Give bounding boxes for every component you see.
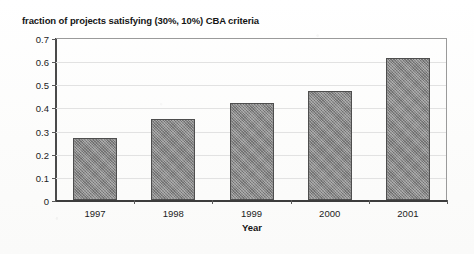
y-axis-tick-label: 0.3: [36, 126, 49, 137]
y-axis-tick: [52, 178, 56, 179]
x-axis-tick: [447, 200, 448, 204]
x-axis-line: [56, 200, 448, 202]
y-axis-tick: [52, 85, 56, 86]
y-axis-tick-label: 0: [44, 196, 49, 207]
x-axis-title: Year: [242, 222, 262, 233]
y-axis-tick: [52, 108, 56, 109]
x-axis-tick: [369, 200, 370, 204]
y-axis-tick: [52, 62, 56, 63]
x-axis-label-2000: 2000: [319, 208, 340, 219]
plot-area: 00.10.20.30.40.50.60.7: [56, 38, 447, 200]
bar-1998: [151, 119, 195, 200]
x-axis-tick: [212, 200, 213, 204]
y-axis-tick-label: 0.2: [36, 149, 49, 160]
y-axis-tick-label: 0.5: [36, 80, 49, 91]
x-axis-label-1998: 1998: [163, 208, 184, 219]
y-axis-tick: [52, 201, 56, 202]
y-axis-tick-label: 0.6: [36, 57, 49, 68]
bar-2001: [386, 58, 430, 200]
x-axis-tick: [291, 200, 292, 204]
bar-1997: [73, 138, 117, 200]
bar-1999: [230, 103, 274, 200]
y-axis-tick-label: 0.4: [36, 103, 49, 114]
x-axis-tick: [134, 200, 135, 204]
y-axis-tick-label: 0.1: [36, 172, 49, 183]
chart-screenshot: fraction of projects satisfying (30%, 10…: [0, 0, 474, 254]
y-axis-tick-label: 0.7: [36, 34, 49, 45]
x-axis-label-2001: 2001: [397, 208, 418, 219]
y-axis-tick: [52, 155, 56, 156]
bar-2000: [308, 91, 352, 200]
chart-title: fraction of projects satisfying (30%, 10…: [22, 15, 259, 26]
y-axis-tick: [52, 132, 56, 133]
y-axis-tick: [52, 39, 56, 40]
x-axis-label-1997: 1997: [85, 208, 106, 219]
x-axis-label-1999: 1999: [241, 208, 262, 219]
